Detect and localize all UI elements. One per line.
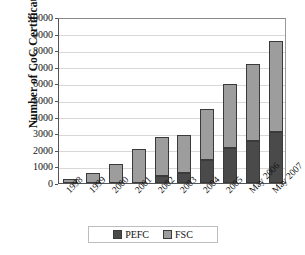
- y-tick-label: 10000: [7, 13, 53, 23]
- y-tick-label: 0: [7, 179, 53, 189]
- bar-stack: [63, 17, 77, 183]
- y-tick-label: 9000: [7, 30, 53, 40]
- legend-swatch-icon: [113, 230, 122, 239]
- bar-stack: [246, 17, 260, 183]
- bar-stack: [109, 17, 123, 183]
- bar-stack: [177, 17, 191, 183]
- bar-segment-fsc: [269, 41, 283, 131]
- legend-swatch-icon: [163, 230, 172, 239]
- bar-segment-fsc: [177, 135, 191, 174]
- bar-segment-fsc: [155, 137, 169, 176]
- legend-item: FSC: [163, 229, 193, 240]
- y-tick-label: 3000: [7, 129, 53, 139]
- bar-stack: [269, 17, 283, 183]
- bar-stack: [132, 17, 146, 183]
- bar-stack: [200, 17, 214, 183]
- y-tick-label: 4000: [7, 113, 53, 123]
- bar-stack: [155, 17, 169, 183]
- legend-label: PEFC: [125, 229, 149, 240]
- y-tick-label: 5000: [7, 96, 53, 106]
- bar-segment-fsc: [200, 109, 214, 160]
- chart-legend: PEFCFSC: [88, 226, 218, 243]
- plot-area: [58, 18, 286, 184]
- bar-stack: [223, 17, 237, 183]
- legend-label: FSC: [175, 229, 193, 240]
- y-tick-mark: [55, 184, 58, 185]
- legend-item: PEFC: [113, 229, 149, 240]
- bar-stack: [86, 17, 100, 183]
- y-tick-label: 6000: [7, 79, 53, 89]
- chart-figure: Number of CoC Certificates 0100020003000…: [0, 0, 305, 255]
- y-tick-label: 8000: [7, 46, 53, 56]
- y-tick-label: 7000: [7, 63, 53, 73]
- bar-segment-fsc: [223, 84, 237, 148]
- bar-segment-fsc: [246, 64, 260, 141]
- y-tick-label: 2000: [7, 146, 53, 156]
- y-tick-label: 1000: [7, 162, 53, 172]
